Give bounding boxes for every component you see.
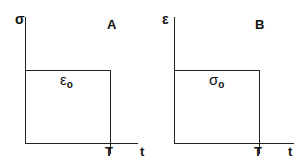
level-label: εo xyxy=(60,72,73,90)
y-axis xyxy=(174,17,175,144)
x-axis xyxy=(174,143,294,144)
x-axis-label: t xyxy=(288,145,292,158)
level-symbol: ε xyxy=(60,71,67,88)
panel-tag: A xyxy=(107,18,116,31)
level-subscript: o xyxy=(218,79,224,90)
x-axis xyxy=(25,143,138,144)
panel-b: ε B σo T t xyxy=(154,0,308,162)
level-subscript: o xyxy=(67,79,73,90)
panel-a: σ A εo T t xyxy=(0,0,154,162)
panel-tag: B xyxy=(255,18,264,31)
y-axis xyxy=(25,17,26,144)
step-end-line xyxy=(110,70,111,154)
level-symbol: σ xyxy=(209,71,218,88)
step-level-line xyxy=(25,70,111,71)
end-time-label: T xyxy=(254,145,262,158)
y-axis-label: ε xyxy=(162,12,169,26)
end-time-label: T xyxy=(105,145,113,158)
x-axis-label: t xyxy=(140,145,144,158)
y-axis-label: σ xyxy=(15,12,25,26)
level-label: σo xyxy=(209,72,224,90)
step-end-line xyxy=(259,70,260,154)
